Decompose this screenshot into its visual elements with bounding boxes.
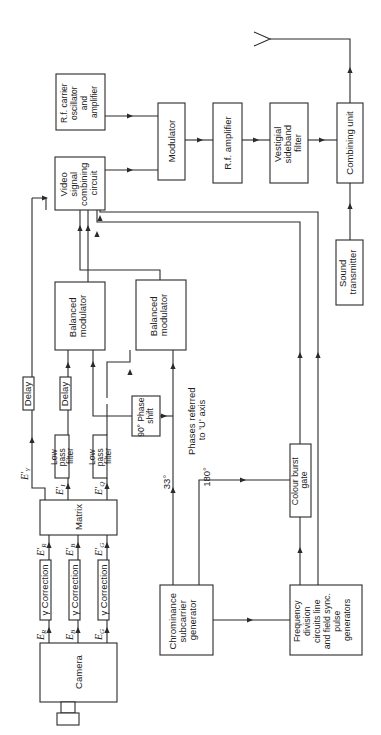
- rf-carrier-oscillator: R.f. carrier oscillator and amplifier: [56, 74, 105, 130]
- svg-text:Modulator: Modulator: [166, 120, 177, 162]
- svg-text:Balanced modulator: Balanced modulator: [67, 295, 88, 337]
- delay-y: Delay: [22, 377, 34, 410]
- svg-text:Low pass filter: Low pass filter: [87, 446, 113, 466]
- svg-text:Matrix: Matrix: [73, 504, 84, 530]
- sound-transmitter: Sound transmitter: [336, 240, 363, 305]
- video-signal-combining-circuit: Video signal combining circuit: [55, 157, 105, 210]
- svg-text:Low pass filter: Low pass filter: [49, 446, 75, 466]
- svg-text:Balanced modulator: Balanced modulator: [148, 294, 169, 336]
- gamma-correction-r: γ Correction: [39, 560, 51, 620]
- signal-er: ER: [35, 629, 48, 641]
- vestigial-sideband-filter: Vestigial sideband filter: [270, 103, 308, 183]
- signal-epr: E'R: [35, 543, 48, 557]
- balanced-modulator-q: Balanced modulator: [136, 280, 186, 350]
- delay-i: Delay: [59, 377, 71, 410]
- tv-transmitter-diagram: Camera γ Correction γ Correction γ Corre…: [0, 0, 381, 735]
- svg-text:Delay: Delay: [59, 382, 70, 407]
- colour-burst-gate: Colour burst gate: [290, 444, 311, 517]
- modulator-block: Modulator: [158, 103, 185, 180]
- svg-text:γ Correction: γ Correction: [69, 564, 80, 615]
- signal-epy: E'Y: [19, 467, 32, 481]
- frequency-division-circuits: Frequency division circuits line and fie…: [290, 585, 362, 655]
- rf-amplifier: R.f. amplifier: [213, 103, 242, 183]
- signal-epq: E'Q: [93, 482, 106, 496]
- phase-33-label: 33°: [161, 475, 172, 490]
- camera-lens-icon: [61, 702, 75, 713]
- chrominance-subcarrier-generator: Chrominance subcarrier generator: [160, 585, 213, 655]
- svg-text:γ Correction: γ Correction: [39, 564, 50, 615]
- phases-referred-label: Phases referred to 'U' axis: [186, 385, 207, 455]
- gamma-correction-g: γ Correction: [98, 560, 109, 620]
- phase-180-label: 180°: [201, 467, 212, 487]
- phase-annotations: 33° 180° Phases referred to 'U' axis: [161, 385, 212, 489]
- camera-block: Camera: [40, 643, 117, 725]
- gamma-correction-b: γ Correction: [69, 560, 80, 620]
- combining-unit: Combining unit: [337, 103, 363, 183]
- low-pass-filter-q: Low pass filter: [87, 435, 113, 478]
- signal-epi: E'I: [54, 484, 67, 496]
- signal-labels: ER EB EG E'R E'B E'G E'Y E'I E'Q: [19, 467, 106, 641]
- matrix-block: Matrix: [40, 500, 117, 535]
- balanced-modulator-i: Balanced modulator: [55, 282, 105, 350]
- svg-text:Frequency division: Frequency division circuits line and fie…: [292, 591, 352, 650]
- signal-eg: EG: [93, 629, 106, 641]
- svg-text:R.f. amplifier: R.f. amplifier: [222, 116, 233, 169]
- camera-label: Camera: [73, 654, 84, 689]
- signal-eb: EB: [64, 629, 77, 641]
- svg-text:γ Correction: γ Correction: [98, 564, 109, 615]
- svg-text:Delay: Delay: [22, 382, 33, 407]
- phase-shift-90: 90° Phase shift: [132, 395, 160, 437]
- signal-epb: E'B: [64, 543, 77, 557]
- signal-epg: E'G: [93, 543, 106, 557]
- svg-text:Combining unit: Combining unit: [344, 111, 355, 175]
- low-pass-filter-i: Low pass filter: [49, 435, 75, 478]
